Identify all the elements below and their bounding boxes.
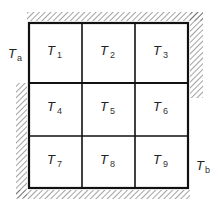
insulation-bottom	[16, 190, 190, 199]
insulation-right-upper	[190, 12, 203, 98]
boundary-label-tb: Tb	[196, 158, 210, 175]
insulation-left-lower	[16, 83, 27, 198]
boundary-label-ta: Ta	[8, 46, 22, 63]
insulation-top	[27, 12, 203, 21]
grid-diagram: T1T2T3T4T5T6T7T8T9 Ta Tb	[0, 0, 218, 216]
